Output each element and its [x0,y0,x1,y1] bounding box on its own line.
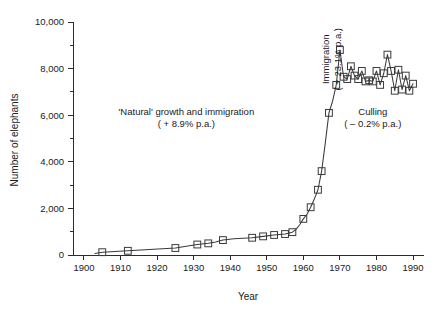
annotation-line-2: ( + 23.1% p.a.) [332,28,343,91]
y-tick-label: 10,000 [35,16,64,27]
x-tick-label: 1910 [110,262,131,273]
axis-lines [73,22,424,255]
annotation-line-1: Culling [358,106,387,117]
x-tick-label: 1990 [402,262,423,273]
annotation-line-2: ( + 8.9% p.a.) [158,118,215,129]
x-tick-label: 1940 [220,262,241,273]
plot-area: 02,0004,0006,0008,00010,000 190019101920… [9,16,424,302]
chart-canvas: 02,0004,0006,0008,00010,000 190019101920… [0,0,444,309]
y-axis-title: Number of elephants [9,94,20,187]
x-tick-label: 1950 [256,262,277,273]
annotation-natural-growth: 'Natural' growth and immigration( + 8.9%… [119,106,255,129]
y-tick-label: 4,000 [40,156,64,167]
y-tick-group: 02,0004,0006,0008,00010,000 [35,16,73,260]
annotation-culling: Culling( – 0.2% p.a.) [344,106,401,129]
x-tick-label: 1980 [366,262,387,273]
axes-group [73,22,424,255]
annotation-line-2: ( – 0.2% p.a.) [344,118,401,129]
annotation-line-1: Immigration [320,34,331,84]
x-tick-label: 1960 [293,262,314,273]
data-markers-group [99,47,417,256]
elephant-population-chart: 02,0004,0006,0008,00010,000 190019101920… [0,0,444,309]
x-tick-label: 1970 [329,262,350,273]
y-tick-label: 6,000 [40,110,64,121]
x-tick-group: 1900191019201930194019501960197019801990 [73,255,423,273]
y-tick-label: 8,000 [40,63,64,74]
x-axis-title: Year [238,291,259,302]
annotation-immigration: Immigration( + 23.1% p.a.) [320,28,343,91]
x-tick-label: 1930 [183,262,204,273]
x-tick-label: 1900 [73,262,94,273]
x-tick-label: 1920 [147,262,168,273]
annotation-line-1: 'Natural' growth and immigration [119,106,255,117]
y-tick-label: 0 [59,249,64,260]
y-tick-label: 2,000 [40,203,64,214]
